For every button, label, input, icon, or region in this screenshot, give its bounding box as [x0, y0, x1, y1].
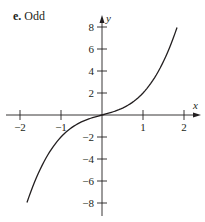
x-tick-label: 1 [140, 121, 146, 133]
y-tick-label: 4 [89, 65, 95, 77]
x-tick-label: −2 [14, 121, 26, 133]
y-tick-label: −6 [82, 175, 94, 187]
y-tick-label: −8 [82, 197, 94, 209]
y-tick-label: 2 [89, 87, 95, 99]
x-tick-label: 2 [181, 121, 187, 133]
y-tick-label: 8 [89, 21, 95, 33]
x-axis-label: x [192, 99, 198, 111]
y-axis-arrow-icon [100, 15, 105, 23]
y-tick-label: −2 [82, 131, 94, 143]
x-tick-label: −1 [55, 121, 67, 133]
y-tick-label: −4 [82, 153, 94, 165]
x-axis-arrow-icon [193, 113, 201, 118]
y-tick-label: 6 [89, 43, 95, 55]
y-axis-label: y [105, 12, 111, 24]
odd-function-graph: xy−2−1128642−2−4−6−8 [0, 0, 205, 222]
